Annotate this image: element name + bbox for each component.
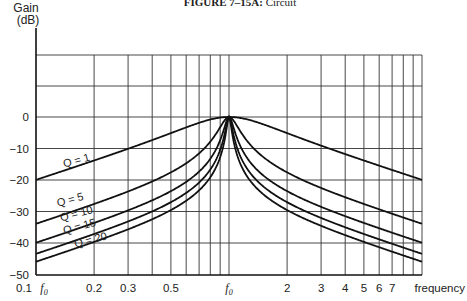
y-tick-label: −30 [9, 206, 29, 218]
y-axis-label-unit: (dB) [17, 13, 40, 27]
y-tick-labels: 0−10−20−30−40−50 [9, 111, 29, 281]
x-axis-label: frequency [414, 282, 465, 294]
y-tick-label: −50 [9, 269, 29, 281]
chart-title-bold: FIGURE 7–15A: [184, 0, 263, 8]
y-tick-label: 0 [23, 111, 29, 123]
x-tick-label: 5 [361, 282, 367, 294]
x-tick-label: 0.5 [163, 282, 179, 294]
chart-title: FIGURE 7–15A: Circuit [184, 0, 296, 8]
x-tick-label: 3 [318, 282, 324, 294]
x-tick-label: 4 [342, 282, 349, 294]
bandpass-gain-chart: FIGURE 7–15A: Circuit Gain (dB) 0−10−20−… [0, 0, 467, 301]
x-origin-f0-label: f0 [40, 281, 47, 297]
x-tick-label: f0 [225, 281, 232, 297]
x-tick-labels: 0.10.20.30.5f0234567f0 [16, 281, 395, 297]
chart-title-rest: Circuit [263, 0, 296, 8]
y-tick-label: −40 [9, 237, 29, 249]
x-tick-label: 2 [284, 282, 290, 294]
x-tick-subscript: 0 [229, 288, 233, 297]
x-tick-label: 0.2 [86, 282, 102, 294]
y-tick-label: −10 [9, 143, 29, 155]
x-origin-subscript: 0 [44, 288, 48, 297]
x-tick-label: 0.3 [120, 282, 136, 294]
x-tick-label: 7 [389, 282, 395, 294]
x-tick-label: 0.1 [16, 282, 32, 294]
y-tick-label: −20 [9, 174, 29, 186]
x-tick-label: 6 [376, 282, 382, 294]
